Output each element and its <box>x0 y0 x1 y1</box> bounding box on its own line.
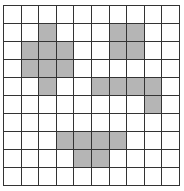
grid-cell <box>91 59 109 77</box>
shaded-cell <box>38 77 56 95</box>
grid-cell <box>161 77 179 95</box>
grid-cell <box>3 131 21 149</box>
grid-cell <box>161 5 179 23</box>
shaded-cell <box>73 149 91 167</box>
grid-cell <box>73 41 91 59</box>
grid-cell <box>144 23 162 41</box>
grid-cell <box>3 41 21 59</box>
grid-cell <box>91 167 109 185</box>
grid-cell <box>38 113 56 131</box>
grid-cell <box>21 167 39 185</box>
shaded-cell <box>126 41 144 59</box>
shaded-cell <box>21 59 39 77</box>
shaded-cell <box>56 41 74 59</box>
grid-cell <box>3 77 21 95</box>
shaded-cell <box>38 41 56 59</box>
grid-cell <box>144 113 162 131</box>
grid-cell <box>56 77 74 95</box>
grid-cell <box>109 95 127 113</box>
grid-cell <box>56 113 74 131</box>
grid-cell <box>73 167 91 185</box>
grid-cell <box>3 167 21 185</box>
grid-cell <box>126 149 144 167</box>
grid-cell <box>91 95 109 113</box>
shaded-cell <box>126 77 144 95</box>
grid-cell <box>3 113 21 131</box>
grid-cell <box>38 149 56 167</box>
grid-cell <box>161 167 179 185</box>
grid-cell <box>56 149 74 167</box>
grid-cell <box>126 59 144 77</box>
grid-cell <box>109 113 127 131</box>
grid-cell <box>21 23 39 41</box>
shaded-cell <box>91 149 109 167</box>
grid-cell <box>126 5 144 23</box>
grid-cell <box>126 131 144 149</box>
shaded-cell <box>109 131 127 149</box>
grid-cell <box>38 131 56 149</box>
grid-cell <box>144 5 162 23</box>
grid-cell <box>161 131 179 149</box>
grid-cell <box>144 131 162 149</box>
grid-cell <box>3 5 21 23</box>
shaded-cell <box>91 131 109 149</box>
shaded-cell <box>21 41 39 59</box>
shaded-cell <box>38 59 56 77</box>
shaded-cell <box>126 23 144 41</box>
grid-cell <box>38 5 56 23</box>
grid-cell <box>38 167 56 185</box>
grid-cell <box>56 23 74 41</box>
grid-cell <box>161 113 179 131</box>
shaded-cell <box>109 77 127 95</box>
shaded-cell <box>144 95 162 113</box>
shaded-cell <box>144 77 162 95</box>
grid-cell <box>21 5 39 23</box>
grid-cell <box>91 5 109 23</box>
grid-cell <box>91 113 109 131</box>
grid-cell <box>73 5 91 23</box>
grid-cell <box>126 95 144 113</box>
grid-cell <box>3 23 21 41</box>
grid-cell <box>144 149 162 167</box>
grid-cell <box>73 113 91 131</box>
grid-cell <box>161 23 179 41</box>
grid-cell <box>126 113 144 131</box>
grid-cell <box>21 131 39 149</box>
shaded-cell <box>73 131 91 149</box>
grid-cell <box>161 59 179 77</box>
grid-cell <box>161 149 179 167</box>
grid-cell <box>161 95 179 113</box>
grid-cell <box>109 167 127 185</box>
grid-cell <box>144 41 162 59</box>
grid-cell <box>161 41 179 59</box>
square-grid <box>3 5 180 186</box>
shaded-cell <box>91 77 109 95</box>
shaded-cell <box>109 23 127 41</box>
grid-cell <box>73 59 91 77</box>
grid-cell <box>21 113 39 131</box>
grid-cell <box>91 41 109 59</box>
grid-cell <box>73 95 91 113</box>
grid-cell <box>144 59 162 77</box>
grid-cell <box>144 167 162 185</box>
grid-cell <box>73 77 91 95</box>
grid-cell <box>38 95 56 113</box>
shaded-cell <box>56 59 74 77</box>
grid-cell <box>21 149 39 167</box>
shaded-cell <box>109 41 127 59</box>
grid-cell <box>91 23 109 41</box>
grid-cell <box>56 95 74 113</box>
grid-cell <box>3 59 21 77</box>
grid-cell <box>56 167 74 185</box>
grid-cell <box>126 167 144 185</box>
shaded-cell <box>56 131 74 149</box>
grid-cell <box>56 5 74 23</box>
shaded-cell <box>38 23 56 41</box>
grid-cell <box>21 95 39 113</box>
grid-cell <box>73 23 91 41</box>
grid-cell <box>3 149 21 167</box>
grid-cell <box>109 149 127 167</box>
grid-cell <box>3 95 21 113</box>
grid-cell <box>109 5 127 23</box>
grid-cell <box>21 77 39 95</box>
